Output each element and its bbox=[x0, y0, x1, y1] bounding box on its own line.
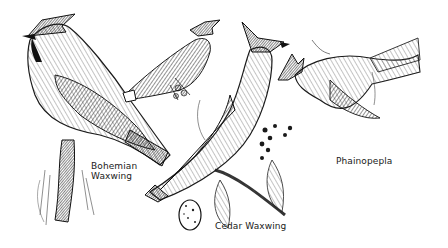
label-bohemian-line1: Bohemian bbox=[91, 161, 137, 171]
label-bohemian-line2: Waxwing bbox=[91, 171, 137, 181]
label-phainopepla: Phainopepla bbox=[336, 156, 392, 166]
egg-figure bbox=[179, 200, 201, 230]
illustration-art bbox=[0, 0, 448, 248]
label-bohemian-waxwing: Bohemian Waxwing bbox=[91, 161, 137, 181]
cedar-waxwing-figure bbox=[145, 22, 292, 228]
label-cedar-waxwing: Cedar Waxwing bbox=[215, 221, 286, 231]
bohemian-waxwing-small-figure bbox=[123, 20, 220, 102]
bird-illustration: Bohemian Waxwing Cedar Waxwing Phainopep… bbox=[0, 0, 448, 248]
phainopepla-figure bbox=[278, 38, 420, 118]
